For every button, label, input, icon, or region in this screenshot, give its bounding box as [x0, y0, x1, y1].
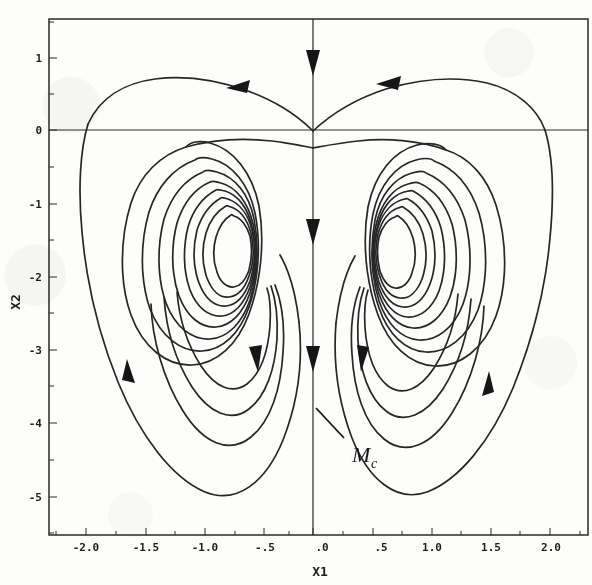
arrow-mc-top — [306, 50, 320, 76]
y-tick-label: 1 — [35, 52, 42, 65]
mc-leader-line — [316, 408, 344, 438]
x-axis-title: X1 — [312, 564, 328, 579]
arrow-outer-left-up — [122, 359, 135, 383]
y-tick-label: -5 — [29, 491, 42, 504]
y-axis-title: X2 — [8, 294, 23, 310]
left-spiral-orbit — [122, 142, 261, 365]
arrow-upper-left — [226, 80, 250, 93]
arrow-mc-mid — [306, 219, 320, 245]
x-tick-label: 1.5 — [481, 541, 501, 554]
arrow-inner-right-down — [357, 345, 369, 372]
x-tick-label: .5 — [374, 541, 387, 554]
x-axis-ticks — [56, 528, 580, 535]
plot-svg: M c -2.0 -1.5 -1.0 -.5 .0 .5 1.0 1.5 2.0… — [0, 0, 592, 585]
y-tick-label: -1 — [29, 198, 43, 211]
arrow-mc-bottom — [306, 346, 320, 372]
mc-label-m: M — [351, 442, 372, 467]
x-tick-label: -.5 — [255, 541, 275, 554]
y-tick-labels: 1 0 -1 -2 -3 -4 -5 — [29, 52, 43, 504]
arrow-outer-right-up — [482, 371, 494, 396]
y-axis-ticks — [49, 22, 57, 533]
x-tick-label: -1.5 — [133, 541, 160, 554]
y-tick-label: -3 — [29, 344, 42, 357]
plot-frame — [49, 19, 588, 535]
phase-portrait-figure: M c -2.0 -1.5 -1.0 -.5 .0 .5 1.0 1.5 2.0… — [0, 0, 592, 585]
x-tick-labels: -2.0 -1.5 -1.0 -.5 .0 .5 1.0 1.5 2.0 — [73, 541, 561, 554]
x-tick-label: .0 — [315, 541, 328, 554]
y-tick-label: -4 — [29, 417, 43, 430]
mc-annotation: M c — [316, 408, 378, 471]
x-tick-label: 1.0 — [422, 541, 442, 554]
x-tick-label: 2.0 — [541, 541, 561, 554]
x-tick-label: -2.0 — [73, 541, 100, 554]
right-spiral-orbit — [365, 144, 504, 366]
mc-label-subscript: c — [371, 456, 378, 471]
x-tick-label: -1.0 — [192, 541, 219, 554]
y-tick-label: -2 — [29, 271, 42, 284]
axis-lines — [49, 19, 588, 535]
separatrix-branches — [88, 78, 545, 150]
y-tick-label: 0 — [35, 124, 42, 137]
